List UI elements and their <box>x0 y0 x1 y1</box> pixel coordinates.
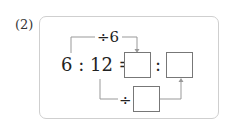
ratio-expression: 6 : 12 = <box>61 55 134 75</box>
ratio-colon: : <box>155 55 161 75</box>
answer-box-1[interactable] <box>124 52 151 78</box>
bottom-operator: ÷ <box>118 92 133 108</box>
answer-box-2[interactable] <box>166 52 193 78</box>
answer-box-divisor[interactable] <box>133 86 160 112</box>
top-operator: ÷6 <box>96 29 120 45</box>
